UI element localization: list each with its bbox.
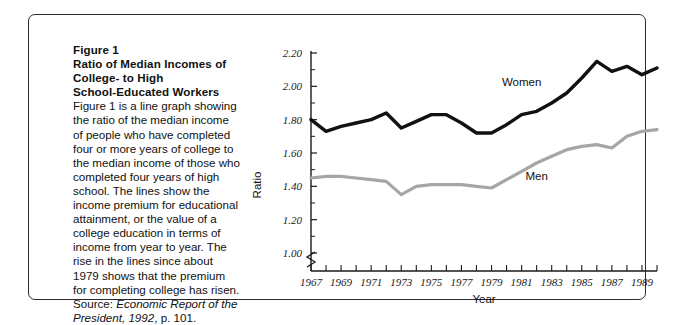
x-tick-label: 1987: [601, 276, 624, 288]
series-line-men: [311, 130, 657, 195]
series-label-men: Men: [525, 170, 547, 182]
series-lines: [311, 61, 657, 194]
x-tick-label: 1971: [360, 276, 382, 288]
x-tick-label: 1979: [481, 276, 504, 288]
x-tick-label: 1973: [390, 276, 413, 288]
x-tick-label: 1981: [511, 276, 533, 288]
source-suffix: , p. 101.: [154, 311, 196, 324]
line-chart: 2.202.001.801.601.401.201.00 19671969197…: [249, 35, 669, 310]
caption-heading-line-3: College- to High: [73, 71, 241, 85]
series-inline-labels: WomenMen: [502, 76, 548, 181]
caption-heading-line-2: Ratio of Median Incomes of: [73, 57, 241, 71]
x-tick-label: 1975: [420, 276, 443, 288]
chart-svg: 2.202.001.801.601.401.201.00 19671969197…: [249, 35, 669, 310]
caption-heading: Figure 1 Ratio of Median Incomes of Coll…: [73, 43, 241, 99]
x-tick-label: 1985: [571, 276, 594, 288]
caption-body-text: Figure 1 is a line graph showing the rat…: [73, 99, 241, 296]
y-tick-label: 2.20: [283, 47, 303, 59]
series-label-women: Women: [502, 76, 541, 88]
y-axis-ticks: [311, 53, 317, 253]
series-line-women: [311, 61, 657, 133]
y-tick-label: 1.40: [283, 180, 303, 192]
figure-frame: Figure 1 Ratio of Median Incomes of Coll…: [28, 14, 646, 300]
caption-heading-line-1: Figure 1: [73, 43, 241, 57]
y-tick-label: 2.00: [283, 80, 303, 92]
x-tick-label: 1989: [631, 276, 654, 288]
x-tick-label: 1969: [330, 276, 353, 288]
x-axis-title: Year: [472, 293, 495, 305]
caption-source: Source: Economic Report of the President…: [73, 297, 241, 325]
y-tick-label: 1.60: [283, 147, 303, 159]
caption-heading-line-4: School-Educated Workers: [73, 85, 241, 99]
y-axis-tick-labels: 2.202.001.801.601.401.201.00: [283, 47, 303, 259]
x-tick-label: 1983: [541, 276, 564, 288]
y-axis-title: Ratio: [251, 172, 263, 199]
x-axis-ticks: [311, 265, 657, 271]
y-tick-label: 1.00: [283, 247, 303, 259]
y-tick-label: 1.80: [283, 114, 303, 126]
y-axis-break-icon: [307, 252, 315, 267]
x-tick-label: 1977: [450, 276, 473, 288]
x-tick-label: 1967: [300, 276, 323, 288]
x-axis-tick-labels: 1967196919711973197519771979198119831985…: [300, 276, 653, 288]
figure-caption: Figure 1 Ratio of Median Incomes of Coll…: [73, 43, 241, 305]
y-tick-label: 1.20: [283, 214, 303, 226]
source-prefix: Source:: [73, 297, 116, 310]
